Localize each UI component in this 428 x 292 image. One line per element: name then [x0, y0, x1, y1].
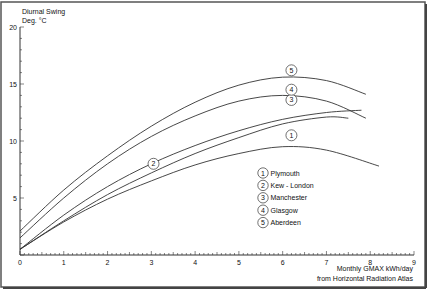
x-axis-label-line2: from Horizontal Radiation Atlas: [317, 275, 414, 282]
curve-label-number: 5: [289, 67, 293, 74]
legend-label: Kew - London: [271, 182, 314, 189]
legend-marker-number: 5: [261, 219, 265, 226]
x-tick-label: 1: [62, 259, 66, 266]
legend-item-glasgow: 4Glasgow: [258, 205, 299, 215]
y-axis-label-line2: Deg. °C: [22, 17, 47, 25]
legend-item-plymouth: 1Plymouth: [258, 168, 300, 178]
x-tick-label: 5: [237, 259, 241, 266]
legend-marker-number: 2: [261, 182, 265, 189]
y-axis-label-line1: Diurnal Swing: [22, 8, 65, 16]
curve-label-number: 3: [289, 96, 293, 103]
outer-border: [1, 2, 425, 287]
curve-label-number: 2: [152, 160, 156, 167]
curve-label-kew-london: 2: [148, 158, 159, 169]
legend-label: Aberdeen: [271, 219, 301, 226]
x-tick-label: 0: [18, 259, 22, 266]
y-tick-label: 15: [9, 81, 17, 88]
x-tick-label: 7: [324, 259, 328, 266]
curve-labels: 12345: [148, 65, 297, 169]
axes: 01234567895101520: [9, 24, 416, 267]
legend-item-kew-london: 2Kew - London: [258, 180, 314, 190]
x-axis-label-line1: Monthly GMAX kWh/day: [337, 265, 414, 273]
curve-label-number: 4: [289, 86, 293, 93]
y-tick-label: 10: [9, 138, 17, 145]
curve-label-manchester: 3: [286, 94, 297, 105]
curve-label-plymouth: 1: [286, 130, 297, 141]
legend-label: Manchester: [271, 194, 308, 201]
legend-marker-number: 1: [261, 170, 265, 177]
x-tick-label: 9: [412, 259, 416, 266]
curves: [20, 77, 379, 249]
x-tick-label: 8: [368, 259, 372, 266]
x-tick-label: 3: [149, 259, 153, 266]
curve-label-number: 1: [289, 132, 293, 139]
x-tick-label: 2: [106, 259, 110, 266]
curve-plymouth: [20, 147, 379, 250]
chart-svg: Diurnal Swing Deg. °C Monthly GMAX kWh/d…: [0, 0, 428, 292]
legend-marker-number: 3: [261, 194, 265, 201]
curve-glasgow: [20, 95, 366, 238]
curve-kew-london: [20, 110, 361, 249]
legend-item-aberdeen: 5Aberdeen: [258, 217, 301, 227]
legend: 1Plymouth2Kew - London3Manchester4Glasgo…: [258, 168, 314, 228]
chart-frame: Diurnal Swing Deg. °C Monthly GMAX kWh/d…: [0, 0, 428, 292]
curve-label-aberdeen: 5: [286, 65, 297, 76]
y-tick-label: 5: [13, 195, 17, 202]
x-tick-label: 6: [281, 259, 285, 266]
y-tick-label: 20: [9, 24, 17, 31]
legend-marker-number: 4: [261, 207, 265, 214]
legend-label: Plymouth: [271, 170, 300, 178]
legend-item-manchester: 3Manchester: [258, 193, 308, 203]
x-tick-label: 4: [193, 259, 197, 266]
legend-label: Glasgow: [271, 207, 299, 215]
curve-label-glasgow: 4: [286, 84, 297, 95]
